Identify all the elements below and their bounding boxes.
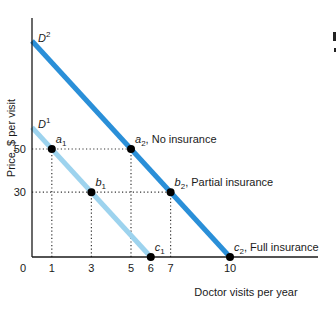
x-tick-label: 5 xyxy=(128,262,134,274)
point-a1 xyxy=(48,145,56,153)
point-b1 xyxy=(87,188,95,196)
x-tick-label: 0 xyxy=(20,262,26,274)
point-label-b2: b2, Partial insurance xyxy=(175,176,274,191)
point-c2 xyxy=(226,253,234,261)
point-label-b1: b1 xyxy=(95,176,106,191)
point-label-c1: c1 xyxy=(155,241,166,256)
curve-label-d1: D1 xyxy=(38,116,51,130)
point-label-a1: a1 xyxy=(56,133,67,148)
point-a2 xyxy=(127,145,135,153)
point-label-c2: c2, Full insurance xyxy=(234,241,319,256)
x-tick-label: 7 xyxy=(168,262,174,274)
y-axis-label: Price, $ per visit xyxy=(5,99,17,177)
x-axis-label: Doctor visits per year xyxy=(194,286,298,298)
x-tick-label: 6 xyxy=(148,262,154,274)
x-tick-label: 10 xyxy=(224,262,236,274)
demand-chart: 013567105030 a1b1c1a2, No insuranceb2, P… xyxy=(0,0,336,312)
point-c1 xyxy=(147,253,155,261)
curve-labels: D1D2 xyxy=(38,30,51,130)
x-tick-label: 3 xyxy=(88,262,94,274)
y-tick-label: 30 xyxy=(14,186,26,198)
tick-labels: 013567105030 xyxy=(14,143,236,274)
curve-label-d2: D2 xyxy=(38,30,51,44)
point-label-a2: a2, No insurance xyxy=(135,133,217,148)
point-b2 xyxy=(167,188,175,196)
data-points: a1b1c1a2, No insuranceb2, Partial insura… xyxy=(48,133,319,261)
x-tick-label: 1 xyxy=(49,262,55,274)
